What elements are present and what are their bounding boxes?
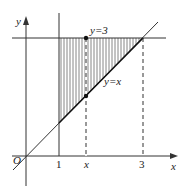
origin-label: O: [13, 154, 21, 166]
point-top: [84, 36, 88, 40]
x-axis-label: x: [170, 160, 176, 172]
y-axis-arrow-icon: [23, 16, 29, 25]
figure: y x O 1 x 3 y=3 y=x: [0, 0, 186, 192]
label-y-equals-x: y=x: [103, 75, 121, 87]
tick-1: 1: [56, 158, 62, 170]
region-diagram: y x O 1 x 3 y=3 y=x: [0, 0, 186, 192]
label-y-equals-3: y=3: [89, 24, 108, 36]
tick-x: x: [83, 158, 89, 170]
point-diagonal: [84, 94, 88, 98]
tick-3: 3: [139, 158, 145, 170]
y-axis-label: y: [15, 15, 21, 27]
x-axis-arrow-icon: [170, 153, 178, 159]
